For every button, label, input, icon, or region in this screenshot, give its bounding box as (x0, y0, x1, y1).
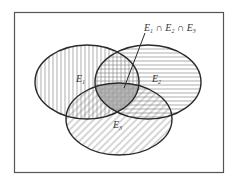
annotation-label: E1 ∩ E2 ∩ E3 (143, 22, 196, 34)
venn-diagram: E1 ∩ E2 ∩ E3 E1 E2 E3 (0, 0, 236, 177)
